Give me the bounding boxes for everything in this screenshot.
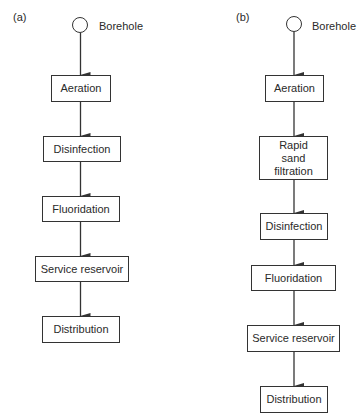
step-distribution-a: Distribution — [42, 316, 120, 343]
step-rapid-sand-filtration-b: Rapid sand filtration — [259, 136, 328, 180]
step-fluoridation-b: Fluoridation — [251, 265, 336, 291]
borehole-circle-icon — [286, 16, 302, 32]
borehole-circle-icon — [72, 17, 88, 33]
step-aeration-a: Aeration — [51, 75, 111, 102]
step-aeration-b: Aeration — [265, 75, 324, 102]
borehole-label-b: Borehole — [312, 20, 356, 32]
borehole-label-a: Borehole — [99, 20, 143, 32]
step-disinfection-b: Disinfection — [260, 213, 328, 240]
step-service-reservoir-b: Service reservoir — [247, 325, 340, 352]
panel-label-b: (b) — [236, 11, 249, 23]
panel-label-a: (a) — [13, 11, 26, 23]
step-distribution-b: Distribution — [260, 386, 328, 413]
step-fluoridation-a: Fluoridation — [42, 196, 120, 222]
step-service-reservoir-a: Service reservoir — [35, 256, 129, 282]
step-disinfection-a: Disinfection — [43, 136, 121, 162]
